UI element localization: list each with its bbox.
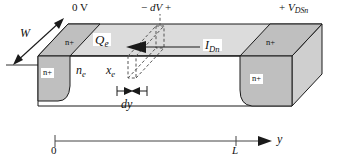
channel-thickness-subscript: e bbox=[111, 69, 115, 79]
gate-left-voltage-text: 0 V bbox=[72, 1, 88, 13]
source-nplus-top-text: n+ bbox=[65, 37, 74, 47]
drain-nplus-front-label: n+ bbox=[250, 74, 263, 84]
dv-plus-sign: + bbox=[165, 1, 171, 13]
dv-variable: dV bbox=[150, 1, 162, 13]
drain-current-label: IDn bbox=[203, 39, 222, 51]
source-nplus-top-label: n+ bbox=[63, 38, 76, 48]
sheet-charge-subscript: e bbox=[104, 39, 108, 49]
slab-width-label: dy bbox=[121, 98, 132, 110]
drain-nplus-front bbox=[240, 56, 292, 106]
axis-variable-label: y bbox=[277, 133, 282, 145]
slab-width-text: dy bbox=[121, 97, 132, 111]
electron-density-label: ne bbox=[74, 64, 88, 76]
axis-length-label: L bbox=[232, 145, 238, 156]
axis-origin-label: 0 bbox=[51, 145, 57, 156]
device-diagram-svg bbox=[0, 0, 338, 163]
incremental-voltage-label: − dV + bbox=[141, 2, 171, 13]
sheet-charge-variable: Q bbox=[95, 32, 104, 47]
width-label-text: W bbox=[20, 26, 30, 40]
width-arrow-head-lower bbox=[13, 54, 23, 65]
y-axis-arrow-head bbox=[258, 136, 272, 146]
vdsn-variable: V bbox=[288, 1, 295, 13]
sheet-charge-label: Qe bbox=[93, 33, 111, 46]
gate-left-voltage-label: 0 V bbox=[72, 2, 88, 13]
axis-origin-text: 0 bbox=[51, 144, 57, 156]
width-arrow-head-upper bbox=[54, 18, 64, 29]
drain-nplus-top-label: n+ bbox=[264, 38, 277, 48]
source-nplus-front bbox=[38, 56, 70, 101]
source-nplus-front-text: n+ bbox=[43, 67, 52, 77]
width-label: W bbox=[20, 27, 30, 39]
drain-nplus-top-text: n+ bbox=[266, 37, 275, 47]
channel-thickness-label: xe bbox=[104, 64, 117, 76]
axis-variable-text: y bbox=[277, 132, 282, 146]
source-nplus-front-label: n+ bbox=[41, 68, 54, 78]
electron-density-subscript: e bbox=[82, 69, 86, 79]
vdsn-subscript: DSn bbox=[295, 6, 309, 15]
drain-current-subscript: Dn bbox=[209, 44, 220, 54]
figure-canvas: 0 V − dV + + VDSn W n+ Qe IDn n+ n+ ne x… bbox=[0, 0, 338, 163]
drain-nplus-front-text: n+ bbox=[252, 73, 261, 83]
drain-voltage-label: + VDSn bbox=[279, 2, 308, 13]
axis-length-text: L bbox=[232, 144, 238, 156]
